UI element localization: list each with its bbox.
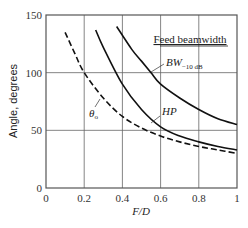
curves bbox=[65, 27, 237, 154]
legend-title: Feed beamwidth bbox=[153, 33, 227, 45]
beamwidth-chart: 00.20.40.60.81050100150 Feed beamwidth B… bbox=[0, 0, 248, 228]
y-axis-label: Angle, degrees bbox=[7, 64, 19, 138]
y-tick-label: 50 bbox=[31, 124, 43, 136]
theta-label: θo bbox=[89, 107, 98, 121]
bw-leader bbox=[151, 64, 164, 72]
curve--o bbox=[65, 32, 237, 153]
theta-leader bbox=[95, 99, 100, 107]
x-tick-label: 0.2 bbox=[77, 192, 91, 204]
y-tick-label: 150 bbox=[26, 9, 43, 21]
y-tick-label: 100 bbox=[26, 67, 43, 79]
x-tick-label: 0.8 bbox=[192, 192, 206, 204]
bw-label: BW−10 dB bbox=[166, 56, 203, 71]
x-tick-label: 1 bbox=[234, 192, 240, 204]
x-tick-label: 0 bbox=[43, 192, 49, 204]
y-tick-label: 0 bbox=[37, 182, 43, 194]
x-tick-label: 0.6 bbox=[154, 192, 168, 204]
hp-label: HP bbox=[161, 105, 177, 117]
x-axis-label: F/D bbox=[131, 205, 150, 217]
curve-hp bbox=[96, 30, 237, 150]
x-tick-label: 0.4 bbox=[116, 192, 130, 204]
